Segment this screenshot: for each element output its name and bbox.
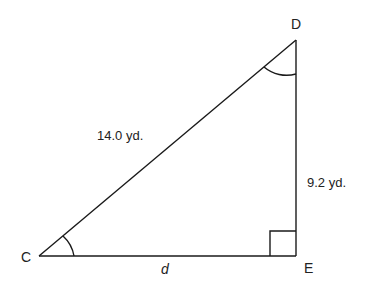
angle-c-arc (63, 236, 74, 256)
vertex-label-c: C (21, 249, 31, 265)
vertex-label-e: E (304, 260, 313, 276)
horizontal-side-variable-label: d (161, 261, 170, 277)
vertical-side-length-label: 9.2 yd. (307, 175, 346, 190)
right-angle-marker (270, 231, 296, 256)
side-cd-hypotenuse (39, 40, 296, 256)
vertex-label-d: D (291, 16, 301, 32)
hypotenuse-length-label: 14.0 yd. (97, 128, 143, 143)
angle-d-arc (264, 67, 296, 75)
triangle-diagram: C D E 14.0 yd. 9.2 yd. d (0, 0, 375, 285)
